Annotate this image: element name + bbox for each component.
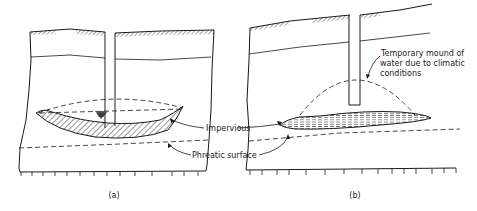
phreatic-surface-a: [19, 140, 209, 148]
mound-leader: [368, 56, 380, 76]
impervious-leader-a: [172, 120, 204, 128]
impervious-lens-b: [280, 112, 431, 130]
water-level-symbol: [95, 111, 108, 119]
phreatic-surface-b: [249, 129, 460, 141]
label-impervious: Impervious: [206, 124, 251, 133]
perched-water-table-a: [38, 99, 183, 113]
label-mound-line3: conditions: [380, 69, 421, 78]
label-mound-line1: Temporary mound of: [380, 49, 464, 58]
section-right-edge-a: [206, 30, 214, 171]
impervious-lens-a: [36, 106, 183, 138]
phreatic-leader-a: [170, 145, 191, 155]
label-mound-line2: water due to climatic: [380, 59, 465, 68]
ground-surface-hatch-b: [250, 21, 290, 31]
temporary-mound: [300, 80, 415, 115]
caption-b: (b): [349, 191, 360, 200]
caption-a: (a): [108, 191, 119, 200]
perched-water-diagram: (a): [0, 0, 477, 211]
section-left-edge-a: [19, 32, 31, 172]
panel-a: (a): [19, 29, 214, 200]
phreatic-leader-b: [259, 137, 288, 155]
label-phreatic-surface: Phreatic surface: [192, 151, 257, 160]
panel-b: (b): [238, 4, 460, 200]
bedrock-ticks-a: [21, 172, 198, 176]
section-left-edge-b: [246, 28, 250, 170]
